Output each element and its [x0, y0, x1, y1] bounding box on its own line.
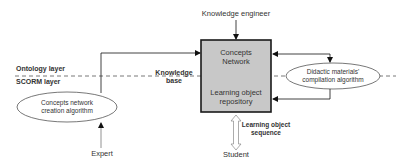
concepts-network-label: Concepts Network [201, 48, 271, 66]
compilation-line1: Didactic materials' [293, 68, 373, 76]
compilation-line2: compilation algorithm [293, 76, 373, 84]
ontology-layer-label: Ontology layer [16, 65, 65, 73]
didactic-compilation-label: Didactic materials' compilation algorith… [293, 68, 373, 84]
sequence-line2: sequence [240, 129, 292, 137]
expert-label: Expert [82, 150, 122, 158]
repository-line2: repository [201, 97, 271, 106]
student-label: Student [216, 151, 256, 159]
scorm-layer-label: SCORM layer [16, 78, 60, 86]
knowledge-engineer-label: Knowledge engineer [200, 10, 272, 18]
knowledge-base-label-line2: base [155, 77, 193, 85]
concepts-network-line2: Network [201, 57, 271, 66]
learning-object-repository-label: Learning object repository [201, 88, 271, 106]
creation-line2: creation algorithm [27, 107, 107, 115]
compilation-to-repository-arrow [273, 89, 330, 99]
knowledge-base-label-line1: Knowledge [155, 69, 193, 77]
repository-line1: Learning object [201, 88, 271, 97]
knowledge-base-label: Knowledge base [155, 69, 193, 85]
learning-object-sequence-label: Learning object sequence [240, 121, 292, 137]
creation-line1: Concepts network [27, 99, 107, 107]
concepts-network-line1: Concepts [201, 48, 271, 57]
concepts-network-creation-label: Concepts network creation algorithm [27, 99, 107, 115]
sequence-line1: Learning object [240, 121, 292, 129]
